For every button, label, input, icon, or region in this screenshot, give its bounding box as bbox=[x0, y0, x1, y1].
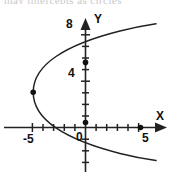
y-tick-label-8: 8 bbox=[66, 18, 73, 30]
y-axis-label: Y bbox=[94, 13, 102, 25]
x-tick-label-neg5: -5 bbox=[23, 133, 34, 145]
x-tick-label-5: 5 bbox=[142, 132, 149, 144]
y-tick-label-4: 4 bbox=[68, 67, 75, 79]
point-y-intercept-upper bbox=[83, 60, 89, 66]
y-axis-arrowhead bbox=[81, 18, 91, 30]
coordinate-plane bbox=[0, 0, 175, 175]
parabola-curve bbox=[33, 24, 156, 92]
point-x-intercept-right bbox=[138, 125, 144, 131]
point-vertex bbox=[30, 89, 36, 95]
x-axis-label: X bbox=[156, 110, 164, 122]
x-tick-label-0: 0 bbox=[76, 131, 83, 143]
point-origin-crossing bbox=[83, 120, 89, 126]
graph-figure: may intercepts as circles bbox=[0, 0, 175, 175]
parabola-curve-lower bbox=[33, 92, 156, 160]
x-axis-arrowhead bbox=[155, 123, 167, 133]
